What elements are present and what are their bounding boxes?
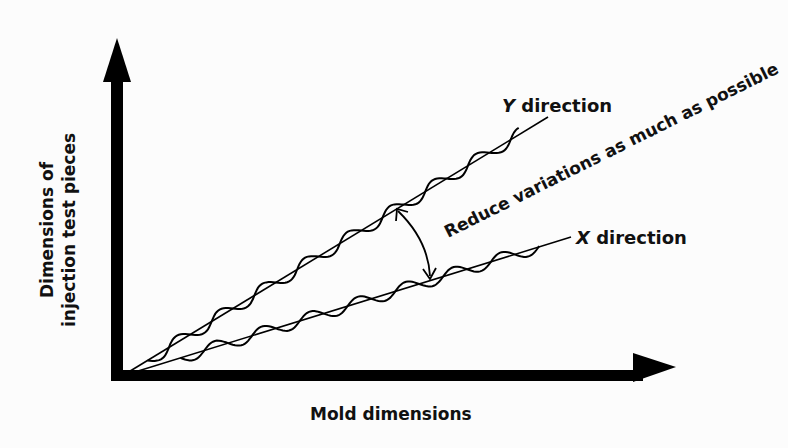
y-axis-shaft	[111, 78, 123, 380]
diagram-canvas: Y direction X direction Reduce variation…	[0, 0, 788, 448]
variation-double-arrow	[396, 209, 436, 279]
x-axis	[111, 353, 676, 382]
x-axis-arrowhead-icon	[633, 353, 676, 382]
y-axis-label-line2: injection test pieces	[59, 133, 79, 327]
y-axis-label: Dimensions of injection test pieces	[37, 133, 79, 327]
series-x-direction	[122, 237, 571, 376]
reduce-variations-annotation: Reduce variations as much as possible	[441, 58, 782, 241]
y-axis-label-line1: Dimensions of	[37, 161, 57, 298]
y-axis	[103, 38, 131, 380]
y-axis-arrowhead-icon	[103, 38, 131, 82]
x-axis-label: Mold dimensions	[310, 404, 472, 424]
x-direction-label: X direction	[575, 227, 687, 248]
variation-arc	[398, 211, 430, 276]
y-direction-trend-line	[122, 117, 548, 376]
y-direction-label: Y direction	[502, 95, 612, 116]
x-axis-shaft	[111, 370, 643, 381]
shrinkage-diagram: Y direction X direction Reduce variation…	[0, 0, 788, 448]
series-y-direction	[122, 117, 548, 376]
